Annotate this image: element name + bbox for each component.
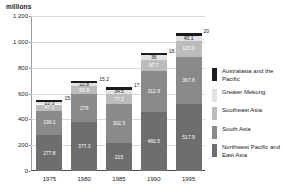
bar-segment-southeast-asia[interactable]: 120.9	[176, 41, 202, 57]
bar-segment-greater-mekong[interactable]: 40.1	[176, 36, 202, 41]
legend-item-greater-mekong[interactable]: Greater Mekong	[212, 89, 282, 102]
bar-value-label: 59.9	[79, 88, 89, 93]
legend-label: Southeast Asia	[222, 107, 262, 115]
bar-value-label: 279	[80, 106, 88, 111]
bar-segment-australasia-and-the-pacific[interactable]	[106, 87, 132, 89]
bar-segment-greater-mekong[interactable]: 34.5	[106, 90, 132, 94]
bar-value-label: 190.1	[43, 120, 56, 125]
bar-value-label: 367.8	[182, 78, 195, 83]
y-axis-tick-label: 600	[18, 91, 28, 97]
bar-segment-australasia-and-the-pacific[interactable]	[141, 53, 167, 55]
bar-segment-south-asia[interactable]: 312.9	[141, 71, 167, 111]
y-axis-tick-label: 0	[25, 168, 28, 174]
x-axis-tick-label: 1975	[43, 176, 56, 182]
legend-item-south-asia[interactable]: South Asia	[212, 126, 282, 139]
legend-swatch-south-asia	[212, 126, 217, 139]
y-axis-tick-mark	[29, 171, 31, 172]
bar-value-label: 120.9	[182, 46, 195, 51]
legend-swatch-northwest-pacific-east-asia	[212, 144, 217, 157]
plot-area: 02004006008001 0001 200 277.8190.147.122…	[31, 16, 205, 171]
bar-segment-south-asia[interactable]: 279	[71, 94, 97, 122]
bar-segment-northwest-pacific-and-east-asia[interactable]: 377.3	[71, 122, 97, 171]
bar-group: 277.8190.147.122.315.4377.327959.922.815…	[31, 16, 205, 171]
bar-segment-southeast-asia[interactable]: 77.3	[106, 94, 132, 104]
bar-segment-south-asia[interactable]: 302.5	[106, 104, 132, 143]
legend-swatch-greater-mekong	[212, 89, 217, 102]
bar-value-label: 20	[204, 29, 210, 34]
y-axis-tick-label: 800	[18, 65, 28, 71]
bar-value-label: 77.3	[114, 97, 124, 102]
bar-segment-greater-mekong[interactable]: 36	[141, 55, 167, 60]
bar-value-label: 517.9	[182, 135, 195, 140]
bar-segment-australasia-and-the-pacific[interactable]	[36, 100, 62, 102]
x-axis-tick-label: 1995	[182, 176, 195, 182]
bar-segment-northwest-pacific-and-east-asia[interactable]: 517.9	[176, 104, 202, 171]
bar-value-label: 40.1	[184, 36, 194, 41]
bar-value-label: 36	[151, 55, 157, 60]
y-axis-tick-label: 400	[18, 116, 28, 122]
bar-segment-northwest-pacific-and-east-asia[interactable]: 277.8	[36, 135, 62, 171]
x-axis-tick-label: 1980	[78, 176, 91, 182]
bar-value-label: 377.3	[78, 144, 91, 149]
bar-value-label: 277.8	[43, 151, 56, 156]
bar-segment-australasia-and-the-pacific[interactable]	[71, 81, 97, 83]
bar-segment-southeast-asia[interactable]: 87.7	[141, 60, 167, 71]
legend-swatch-australasia-pacific	[212, 68, 217, 81]
legend-item-australasia-pacific[interactable]: Australasia and the Pacific	[212, 68, 282, 83]
bar-value-label: 87.7	[149, 63, 159, 68]
bar-value-label: 302.5	[113, 121, 126, 126]
bar-segment-greater-mekong[interactable]: 22.3	[36, 102, 62, 105]
bar-value-label: 312.9	[148, 89, 161, 94]
bar-segment-northwest-pacific-and-east-asia[interactable]: 215	[106, 143, 132, 171]
legend-item-southeast-asia[interactable]: Southeast Asia	[212, 107, 282, 120]
bar-value-label: 34.5	[114, 89, 124, 94]
stacked-bar-chart: millions 02004006008001 0001 200 277.819…	[0, 0, 283, 196]
legend-label: Australasia and the Pacific	[222, 68, 282, 83]
y-axis-title: millions	[6, 3, 31, 10]
bar-value-label: 215	[115, 155, 123, 160]
bar-value-label: 47.1	[45, 105, 55, 110]
bar-value-label: 15.2	[99, 77, 109, 82]
bar-segment-south-asia[interactable]: 367.8	[176, 57, 202, 105]
bar-segment-south-asia[interactable]: 190.1	[36, 111, 62, 136]
bar-value-label: 460.5	[148, 139, 161, 144]
bar-segment-australasia-and-the-pacific[interactable]	[176, 33, 202, 36]
bar-segment-northwest-pacific-and-east-asia[interactable]: 460.5	[141, 112, 167, 171]
y-axis-tick-label: 1 200	[13, 13, 28, 19]
legend-swatch-southeast-asia	[212, 107, 217, 120]
legend-label: Greater Mekong	[222, 89, 265, 97]
bar-segment-southeast-asia[interactable]: 59.9	[71, 86, 97, 94]
x-axis-tick-label: 1985	[112, 176, 125, 182]
x-axis-tick-label: 1990	[147, 176, 160, 182]
legend-label: Northwest Pacific and East Asia	[222, 144, 282, 159]
y-axis-tick-label: 1 000	[13, 39, 28, 45]
legend-label: South Asia	[222, 126, 251, 134]
chart-legend: Australasia and the PacificGreater Mekon…	[212, 68, 282, 165]
legend-item-northwest-pacific-east-asia[interactable]: Northwest Pacific and East Asia	[212, 144, 282, 159]
y-axis-tick-label: 200	[18, 142, 28, 148]
bar-segment-greater-mekong[interactable]: 22.8	[71, 83, 97, 86]
